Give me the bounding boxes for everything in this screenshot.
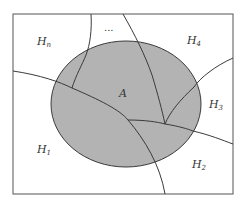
- label-ellipsis: ...: [104, 22, 114, 33]
- label-a: A: [118, 87, 127, 100]
- partition-diagram: Hn ... H4 A H3 H1 H2: [0, 0, 244, 206]
- event-a-region: [51, 41, 201, 167]
